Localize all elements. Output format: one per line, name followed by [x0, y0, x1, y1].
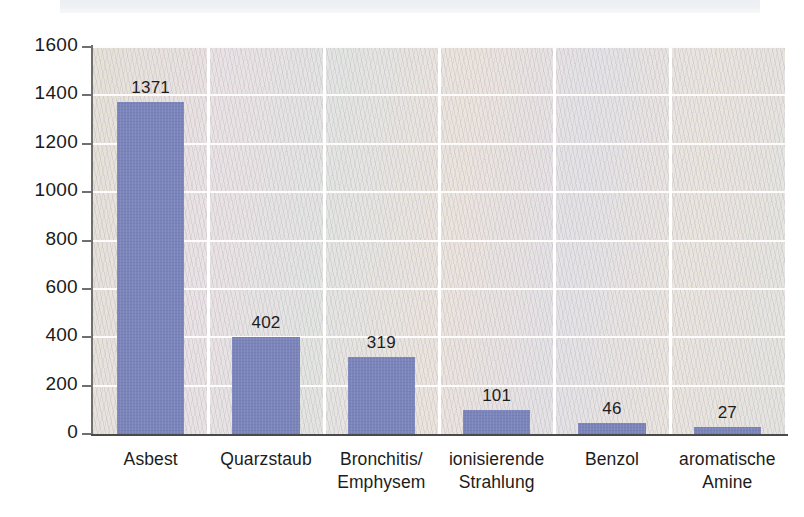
bar-chart-figure: 16001400120010008006004002000 1371Asbest…	[0, 0, 804, 517]
category-label-line: Benzol	[550, 448, 673, 471]
bar	[463, 410, 530, 434]
y-axis-tick-mark	[82, 385, 91, 387]
y-axis-tick-mark	[82, 94, 91, 96]
y-axis-tick-label: 1400	[4, 82, 78, 104]
category-label-line: Amine	[666, 471, 789, 494]
y-axis-tick-labels: 16001400120010008006004002000	[0, 0, 78, 517]
category-label-line: aromatische	[666, 448, 789, 471]
x-axis-category-label: Asbest	[89, 448, 212, 471]
x-axis-category-label: Quarzstaub	[204, 448, 327, 471]
bar-value-label: 101	[452, 386, 542, 406]
gridline-vertical	[323, 47, 326, 434]
y-axis-tick-mark	[82, 46, 91, 48]
y-axis-tick-mark	[82, 191, 91, 193]
y-axis-tick-label: 1600	[4, 34, 78, 56]
x-axis-category-label: aromatischeAmine	[666, 448, 789, 494]
bar-value-label: 46	[567, 399, 657, 419]
category-label-line: Emphysem	[320, 471, 443, 494]
y-axis-line	[91, 45, 93, 436]
x-axis-category-label: Bronchitis/Emphysem	[320, 448, 443, 494]
y-axis-tick-label: 1000	[4, 179, 78, 201]
category-label-line: ionisierende	[435, 448, 558, 471]
bar	[348, 357, 415, 434]
gridline-vertical	[553, 47, 556, 434]
bar	[578, 423, 645, 434]
x-axis-category-label: Benzol	[550, 448, 673, 471]
gridline-vertical	[207, 47, 210, 434]
category-label-line: Asbest	[89, 448, 212, 471]
y-axis-tick-label: 400	[4, 324, 78, 346]
y-axis-tick-label: 1200	[4, 131, 78, 153]
bar	[232, 337, 299, 434]
y-axis-tick-label: 0	[4, 421, 78, 443]
bar-value-label: 1371	[106, 78, 196, 98]
bar-value-label: 27	[682, 403, 772, 423]
y-axis-tick-label: 200	[4, 373, 78, 395]
y-axis-tick-label: 800	[4, 228, 78, 250]
y-axis-tick-mark	[82, 143, 91, 145]
y-axis-tick-mark	[82, 336, 91, 338]
y-axis-tick-mark	[82, 433, 91, 435]
gridline-vertical	[438, 47, 441, 434]
bar-value-label: 319	[336, 333, 426, 353]
category-label-line: Strahlung	[435, 471, 558, 494]
category-label-line: Quarzstaub	[204, 448, 327, 471]
plot-area	[93, 47, 785, 434]
bar-value-label: 402	[221, 313, 311, 333]
x-axis-line	[91, 434, 788, 436]
category-label-line: Bronchitis/	[320, 448, 443, 471]
x-axis-category-label: ionisierendeStrahlung	[435, 448, 558, 494]
bar	[117, 102, 184, 434]
y-axis-tick-mark	[82, 288, 91, 290]
y-axis-tick-mark	[82, 240, 91, 242]
y-axis-tick-label: 600	[4, 276, 78, 298]
gridline-vertical	[669, 47, 672, 434]
